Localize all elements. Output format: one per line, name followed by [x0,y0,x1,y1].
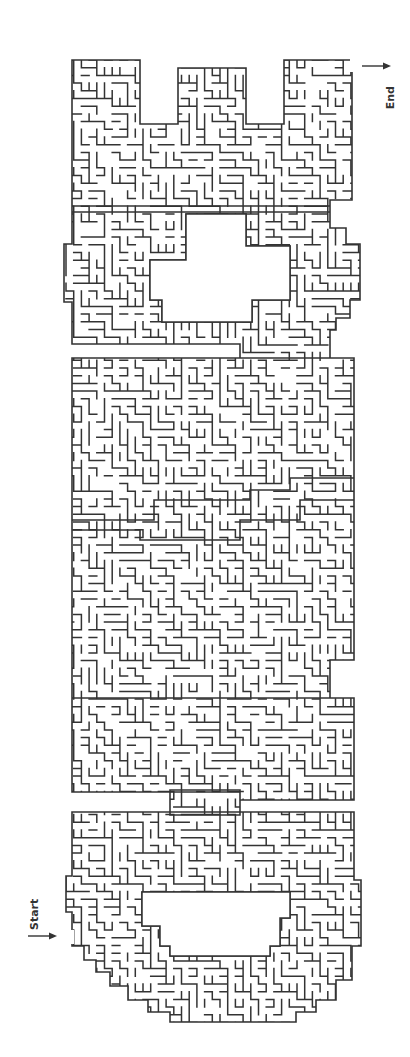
start-label: Start [28,899,41,930]
end-arrow-icon [362,63,391,70]
maze-board [0,0,410,1057]
start-arrow-icon [28,933,57,940]
end-label: End [384,86,397,109]
